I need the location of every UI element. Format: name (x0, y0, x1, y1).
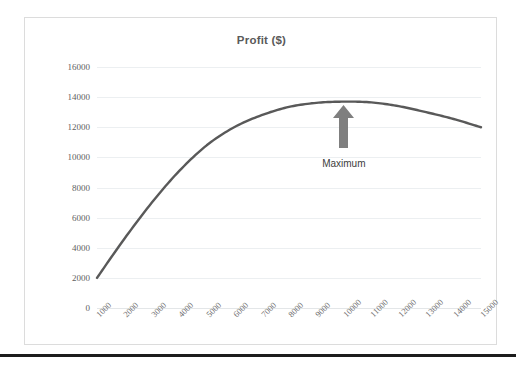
profit-line (97, 102, 481, 278)
x-tick-15000: 15000 (478, 297, 500, 319)
y-tick-10000: 10000 (68, 152, 91, 162)
annotation-label-maximum: Maximum (274, 158, 414, 169)
page-divider-rule (0, 354, 516, 357)
y-tick-6000: 6000 (72, 213, 90, 223)
chart-container: Profit ($) 02000400060008000100001200014… (24, 17, 497, 345)
y-tick-0: 0 (86, 303, 91, 313)
y-tick-8000: 8000 (72, 183, 90, 193)
y-tick-16000: 16000 (68, 62, 91, 72)
y-tick-12000: 12000 (68, 122, 91, 132)
y-tick-2000: 2000 (72, 273, 90, 283)
y-tick-14000: 14000 (68, 92, 91, 102)
up-arrow-icon (333, 105, 354, 148)
plot-area: 0200040006000800010000120001400016000 (97, 67, 481, 308)
chart-title: Profit ($) (25, 34, 498, 46)
line-series (97, 67, 481, 308)
y-tick-4000: 4000 (72, 243, 90, 253)
